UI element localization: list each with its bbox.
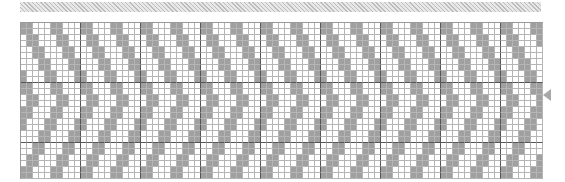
chevron-pattern-grid bbox=[20, 22, 543, 179]
grid-cell bbox=[537, 173, 543, 179]
hatched-header-band bbox=[20, 2, 541, 12]
row-marker-triangle-icon[interactable] bbox=[543, 89, 551, 101]
